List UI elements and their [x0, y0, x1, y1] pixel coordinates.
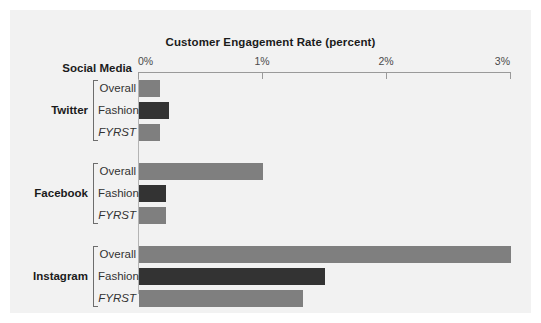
- row-label-twitter-overall: Overall: [98, 80, 136, 97]
- row-label-instagram-fyrst: FYRST: [98, 290, 136, 307]
- bar-row: Overall: [10, 246, 531, 263]
- bar-row: Overall: [10, 163, 531, 180]
- bar-row: FYRST: [10, 207, 531, 224]
- x-tick-mark-0%: [138, 72, 139, 79]
- x-tick-label-2%: 2%: [378, 55, 393, 67]
- bar-row: Overall: [10, 80, 531, 97]
- x-tick-mark-2%: [386, 72, 387, 79]
- bar-row: Fashion: [10, 185, 531, 202]
- bar-instagram-overall[interactable]: [139, 246, 511, 263]
- bar-facebook-fyrst[interactable]: [139, 207, 166, 224]
- bar-group-twitter: TwitterOverallFashionFYRST: [10, 80, 531, 141]
- bar-facebook-fashion[interactable]: [139, 185, 166, 202]
- x-tick-label-1%: 1%: [254, 55, 269, 67]
- bar-row: FYRST: [10, 290, 531, 307]
- y-axis-title: Social Media: [10, 62, 132, 74]
- x-axis-line: [138, 72, 510, 73]
- bar-facebook-overall[interactable]: [139, 163, 263, 180]
- x-tick-label-3%: 3%: [495, 55, 510, 67]
- chart-card: Customer Engagement Rate (percent) Socia…: [10, 10, 531, 313]
- bar-group-instagram: InstagramOverallFashionFYRST: [10, 246, 531, 307]
- bar-twitter-fashion[interactable]: [139, 102, 169, 119]
- x-tick-mark-1%: [262, 72, 263, 79]
- row-label-twitter-fashion: Fashion: [98, 102, 136, 119]
- row-label-twitter-fyrst: FYRST: [98, 124, 136, 141]
- row-label-facebook-fyrst: FYRST: [98, 207, 136, 224]
- bar-group-facebook: FacebookOverallFashionFYRST: [10, 163, 531, 224]
- row-label-facebook-fashion: Fashion: [98, 185, 136, 202]
- row-label-facebook-overall: Overall: [98, 163, 136, 180]
- bar-row: Fashion: [10, 268, 531, 285]
- row-label-instagram-fashion: Fashion: [98, 268, 136, 285]
- bar-instagram-fyrst[interactable]: [139, 290, 303, 307]
- bar-twitter-overall[interactable]: [139, 80, 160, 97]
- chart-title: Customer Engagement Rate (percent): [10, 36, 531, 48]
- row-label-instagram-overall: Overall: [98, 246, 136, 263]
- bar-twitter-fyrst[interactable]: [139, 124, 160, 141]
- bar-row: FYRST: [10, 124, 531, 141]
- x-tick-label-0%: 0%: [138, 55, 153, 67]
- x-tick-mark-3%: [510, 72, 511, 79]
- bar-instagram-fashion[interactable]: [139, 268, 325, 285]
- bar-row: Fashion: [10, 102, 531, 119]
